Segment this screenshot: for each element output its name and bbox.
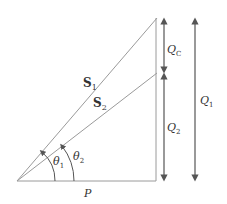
q1-label: Q1 [200,94,214,109]
s2-label: S2 [93,96,107,112]
q2-label: Q2 [167,121,181,136]
theta1-label: θ1 [53,155,64,170]
s1-hypotenuse [17,18,157,181]
p-label: P [83,187,92,200]
theta2-label: θ2 [73,150,84,165]
qc-label: QC [167,43,181,58]
power-triangle-diagram: S1 S2 θ1 θ2 P QC Q2 Q1 [0,0,227,204]
s1-label: S1 [83,76,97,92]
